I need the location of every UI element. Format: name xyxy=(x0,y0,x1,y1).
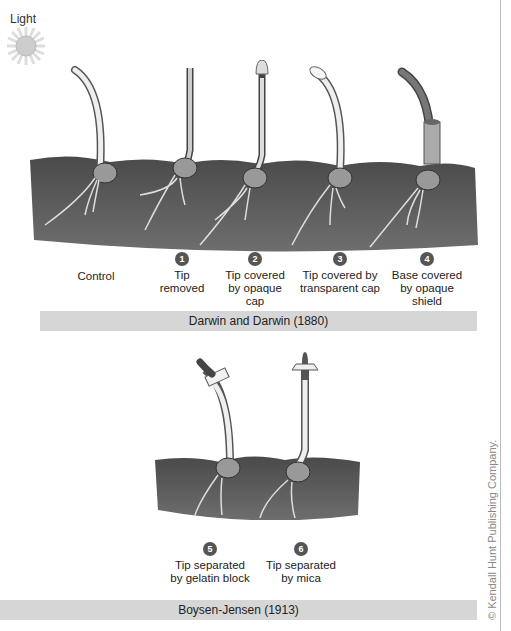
darwin-diagram xyxy=(0,60,500,260)
margin-rule xyxy=(500,0,501,631)
boysen-caption-band: Boysen-Jensen (1913) xyxy=(0,600,477,620)
step-5-badge: 5 xyxy=(203,542,217,556)
soil xyxy=(155,456,360,520)
step-4-badge: 4 xyxy=(420,252,434,266)
step-6-badge: 6 xyxy=(294,542,308,556)
step-1-badge: 1 xyxy=(175,252,189,266)
label-control: Control xyxy=(51,270,141,283)
copyright-credit: © Kendall Hunt Publishing Company. xyxy=(486,440,498,620)
step-3-badge: 3 xyxy=(333,252,347,266)
label-opaque-cap: 2Tip covered by opaque cap xyxy=(210,252,300,308)
label-base-shield: 4Base covered by opaque shield xyxy=(382,252,472,308)
label-transparent-cap: 3Tip covered by transparent cap xyxy=(295,252,385,295)
step-2-badge: 2 xyxy=(248,252,262,266)
label-gelatin-block: 5Tip separated by gelatin block xyxy=(160,542,260,585)
darwin-caption-band: Darwin and Darwin (1880) xyxy=(40,311,477,331)
light-label: Light xyxy=(10,12,36,26)
boysen-diagram xyxy=(150,350,370,520)
label-mica: 6Tip separated by mica xyxy=(251,542,351,585)
